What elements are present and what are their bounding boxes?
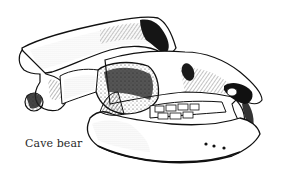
figure-caption: Cave bear: [25, 137, 82, 150]
cave-bear-figure: Cave bear: [0, 0, 283, 180]
cave-bear-skull-drawing: [0, 0, 283, 180]
